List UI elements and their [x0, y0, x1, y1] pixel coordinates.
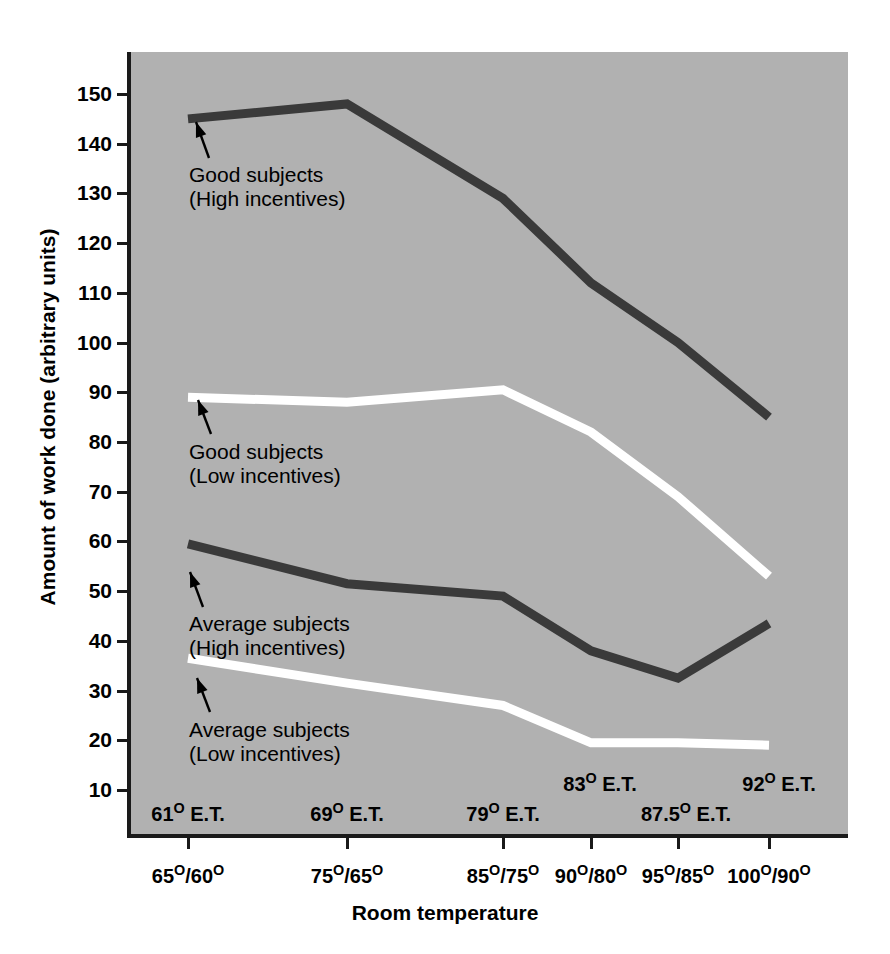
arrow-average-high	[190, 572, 203, 607]
annotation-average-low-line1: Average subjects	[189, 718, 350, 741]
annotation-arrows	[0, 0, 890, 954]
arrow-good-low	[198, 400, 211, 434]
annotation-good-high-line1: Good subjects	[189, 163, 323, 186]
annotation-average-high-line2: (High incentives)	[189, 636, 350, 660]
annotation-good-low-line1: Good subjects	[189, 440, 323, 463]
x-axis-title: Room temperature	[0, 901, 890, 925]
annotation-good-high-line2: (High incentives)	[189, 187, 345, 211]
annotation-average-high: Average subjects (High incentives)	[189, 612, 350, 660]
arrow-good-high	[196, 122, 209, 158]
annotation-average-low-line2: (Low incentives)	[189, 742, 350, 766]
chart-root: 150140130120110100908070605040302010 65O…	[0, 0, 890, 954]
annotation-good-low: Good subjects (Low incentives)	[189, 440, 341, 488]
annotation-average-high-line1: Average subjects	[189, 612, 350, 635]
annotation-good-high: Good subjects (High incentives)	[189, 163, 345, 211]
annotation-good-low-line2: (Low incentives)	[189, 464, 341, 488]
annotation-average-low: Average subjects (Low incentives)	[189, 718, 350, 766]
arrow-average-low	[197, 678, 210, 712]
y-axis-title: Amount of work done (arbitrary units)	[36, 117, 60, 717]
